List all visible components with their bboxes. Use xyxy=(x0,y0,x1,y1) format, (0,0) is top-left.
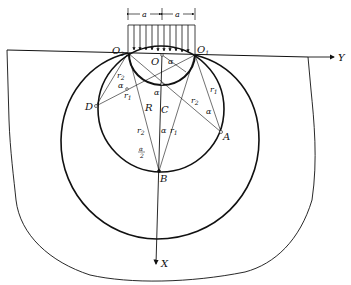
load-width-dimension xyxy=(128,8,195,20)
x-axis-label: X xyxy=(160,258,169,269)
label-B: B xyxy=(159,173,167,184)
radius-r1-D: r1 xyxy=(124,91,132,101)
large-circle xyxy=(61,53,259,239)
radius-r1-A: r1 xyxy=(210,85,218,95)
radius-r1-mid: r1 xyxy=(170,126,178,136)
radius-r2-D: r2 xyxy=(117,71,125,81)
radius-r2-mid: r2 xyxy=(137,126,145,136)
label-D: D xyxy=(84,101,93,112)
label-A: A xyxy=(222,131,230,142)
label-C: C xyxy=(161,104,169,115)
contact-stress-diagram: Y a a X xyxy=(0,0,351,285)
angle-alpha-A: α xyxy=(206,107,212,116)
angle-half-alpha-den: 2 xyxy=(139,152,144,159)
angle-half-alpha-num: α xyxy=(139,145,143,152)
dimension-a-right: a xyxy=(175,10,180,19)
label-O1: O1 xyxy=(197,44,209,56)
dimension-a-left: a xyxy=(142,10,147,19)
label-R: R xyxy=(144,102,153,113)
angle-alpha-C: α xyxy=(154,88,160,97)
angle-alpha-mid: α xyxy=(161,126,167,135)
label-O: O xyxy=(151,56,159,67)
label-O2: O2 xyxy=(112,45,124,57)
angle-alpha-D: α xyxy=(118,81,124,90)
radius-r2-A: r2 xyxy=(191,96,199,106)
angle-alpha-O: α xyxy=(168,57,174,66)
y-axis-label: Y xyxy=(338,52,346,63)
construction-lines xyxy=(96,53,221,171)
